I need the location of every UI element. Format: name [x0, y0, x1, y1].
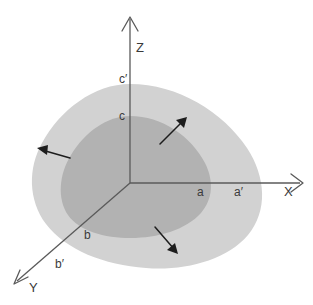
- y-axis-label: Y: [29, 280, 38, 295]
- label-a-prime: a′: [234, 185, 244, 199]
- coordinate-diagram: X Y Z a a′ b b′ c c′: [0, 0, 313, 305]
- z-axis-label: Z: [136, 40, 144, 55]
- label-c: c: [119, 109, 125, 123]
- x-axis-label: X: [284, 184, 293, 199]
- label-a: a: [197, 185, 204, 199]
- label-c-prime: c′: [119, 72, 128, 86]
- label-b: b: [84, 228, 91, 242]
- diagram-canvas: X Y Z a a′ b b′ c c′: [0, 0, 313, 305]
- label-b-prime: b′: [55, 257, 65, 271]
